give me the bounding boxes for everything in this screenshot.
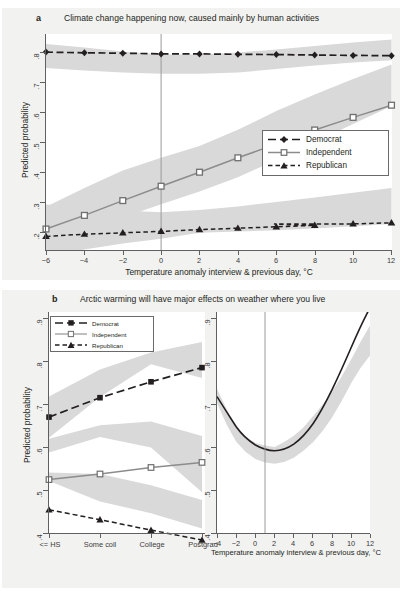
panel-a-ytick-label: .6 — [32, 114, 41, 136]
panel-a-xtick-label: 6 — [266, 256, 286, 265]
panel-a-ytick-mark — [40, 112, 45, 113]
panel-b-right-ytick-mark — [211, 490, 216, 491]
panel-a-xtick-label: 4 — [228, 256, 248, 265]
panel-b-left-x-axis — [48, 533, 205, 534]
panel-b-left-ytick-mark — [43, 447, 48, 448]
panel-b: b Arctic warming will have major effects… — [2, 290, 400, 588]
panel-a-legend-item-democrat[interactable]: Democrat — [267, 134, 342, 145]
democrat-line-sample-icon — [54, 318, 88, 328]
figure-root: a Climate change happening now, caused m… — [0, 0, 402, 591]
panel-b-legend-item-independent[interactable]: Independent — [54, 329, 126, 339]
panel-b-left-band-republican — [49, 473, 202, 529]
independent-line-sample-icon — [54, 329, 88, 339]
panel-b-right-xtick-label: 12 — [361, 539, 379, 548]
panel-b-right-ytick-label: .8 — [203, 363, 212, 385]
panel-b-left-ytick-label: .6 — [35, 449, 44, 471]
panel-a-ytick-mark — [40, 232, 45, 233]
panel-a-legend-item-independent[interactable]: Independent — [267, 147, 352, 158]
panel-a-ytick-mark — [40, 142, 45, 143]
panel-b-right-x-axis-title: Temperature anomaly interview & previous… — [207, 548, 385, 557]
panel-b-right-ytick-label: .9 — [203, 320, 212, 342]
panel-a-legend-label-democrat: Democrat — [306, 135, 342, 144]
panel-b-legend[interactable]: Democrat Independent Republican — [50, 316, 154, 352]
panel-b-right-xtick-label: 10 — [342, 539, 360, 548]
panel-a-y-axis — [45, 34, 46, 250]
panel-a-ytick-mark — [40, 202, 45, 203]
panel-b-right-xtick-mark — [293, 534, 294, 538]
panel-a-xtick-label: 12 — [381, 256, 401, 265]
panel-b-right-xtick-label: 2 — [265, 539, 283, 548]
panel-a-band-democrat — [46, 40, 392, 74]
panel-b-right-xtick-mark — [217, 534, 218, 538]
panel-a-legend-label-republican: Republican — [306, 161, 347, 170]
panel-b-left-ytick-mark — [43, 318, 48, 319]
republican-line-sample-icon — [267, 160, 301, 171]
panel-b-right-ytick-mark — [211, 318, 216, 319]
panel-b-left-ytick-mark — [43, 361, 48, 362]
panel-a: a Climate change happening now, caused m… — [2, 8, 400, 280]
panel-a-ytick-label: .7 — [32, 84, 41, 106]
panel-a-legend-item-republican[interactable]: Republican — [267, 160, 347, 171]
panel-a-xtick-mark — [46, 251, 47, 255]
panel-b-right-ytick-label: .5 — [203, 492, 212, 514]
panel-b-right-xtick-mark — [332, 534, 333, 538]
panel-b-right-xtick-label: 0 — [246, 539, 264, 548]
panel-a-xtick-label: 0 — [151, 256, 171, 265]
panel-b-right-xtick-mark — [255, 534, 256, 538]
panel-b-right-xtick-mark — [236, 534, 237, 538]
panel-b-legend-label-democrat: Democrat — [92, 320, 119, 327]
panel-a-legend[interactable]: Democrat Independent Republican — [262, 130, 389, 176]
panel-b-legend-item-republican[interactable]: Republican — [54, 340, 123, 350]
panel-b-legend-label-independent: Independent — [92, 331, 126, 338]
panel-a-y-axis-title: Predicted probability — [20, 84, 30, 196]
panel-b-right-xtick-label: 8 — [323, 539, 341, 548]
panel-b-right-xtick-label: 6 — [303, 539, 321, 548]
panel-b-right-xtick-mark — [274, 534, 275, 538]
panel-a-xtick-mark — [199, 251, 200, 255]
panel-b-y-axis-title: Predicted probability — [22, 369, 32, 481]
panel-b-right-xtick-mark — [370, 534, 371, 538]
panel-a-xtick-label: −2 — [113, 256, 133, 265]
panel-b-right-y-axis — [216, 312, 217, 533]
panel-b-left-ytick-label: .7 — [35, 406, 44, 428]
panel-a-ytick-label: .2 — [32, 234, 41, 256]
panel-b-right-ytick-label: .6 — [203, 449, 212, 471]
panel-a-legend-label-independent: Independent — [306, 148, 352, 157]
panel-a-xtick-label: 8 — [305, 256, 325, 265]
panel-b-left-ytick-label: .9 — [35, 320, 44, 342]
panel-b-left-ytick-mark — [43, 533, 48, 534]
panel-b-left-xtick-label: College — [133, 540, 171, 549]
panel-a-xtick-label: 2 — [189, 256, 209, 265]
panel-a-ytick-mark — [40, 82, 45, 83]
panel-a-x-axis-title: Temperature anomaly interview & previous… — [46, 267, 392, 277]
panel-a-ytick-mark — [40, 172, 45, 173]
panel-a-xtick-label: −4 — [74, 256, 94, 265]
panel-b-right-xtick-mark — [312, 534, 313, 538]
panel-a-xtick-mark — [353, 251, 354, 255]
panel-b-left-xtick-mark — [151, 534, 152, 538]
panel-b-right-band — [217, 325, 370, 463]
panel-b-right-ytick-label: .7 — [203, 406, 212, 428]
republican-line-sample-icon — [54, 340, 88, 350]
panel-b-right-xtick-label: 4 — [284, 539, 302, 548]
panel-b-left-ytick-label: .5 — [35, 492, 44, 514]
panel-a-ytick-label: .3 — [32, 204, 41, 226]
panel-b-left-y-axis — [48, 312, 49, 533]
panel-b-right-xtick-label: −2 — [227, 539, 245, 548]
panel-b-left-xtick-label: <= HS — [32, 540, 68, 549]
panel-a-xtick-mark — [84, 251, 85, 255]
panel-a-ytick-label: .8 — [32, 54, 41, 76]
panel-b-legend-item-democrat[interactable]: Democrat — [54, 318, 119, 328]
panel-a-xtick-mark — [123, 251, 124, 255]
panel-b-right-ytick-mark — [211, 447, 216, 448]
panel-b-left-xtick-label: Some coll — [80, 540, 120, 549]
panel-a-xtick-mark — [276, 251, 277, 255]
panel-b-left-xtick-mark — [100, 534, 101, 538]
panel-b-left-ytick-label: .8 — [35, 363, 44, 385]
panel-a-xtick-label: −6 — [36, 256, 56, 265]
panel-b-right-xtick-label: −4 — [208, 539, 226, 548]
panel-a-ytick-mark — [40, 52, 45, 53]
panel-a-x-axis — [45, 250, 392, 251]
panel-a-xtick-mark — [315, 251, 316, 255]
panel-b-right-ytick-mark — [211, 361, 216, 362]
